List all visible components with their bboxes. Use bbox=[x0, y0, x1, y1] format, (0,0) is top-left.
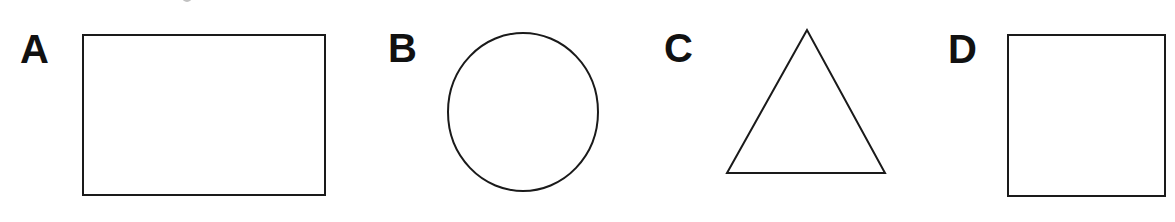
shape-a-rectangle bbox=[83, 35, 325, 195]
shapes-canvas bbox=[0, 0, 1175, 222]
shape-c-triangle bbox=[727, 30, 885, 173]
shape-b-circle bbox=[448, 33, 598, 191]
shape-d-square bbox=[1008, 35, 1165, 196]
